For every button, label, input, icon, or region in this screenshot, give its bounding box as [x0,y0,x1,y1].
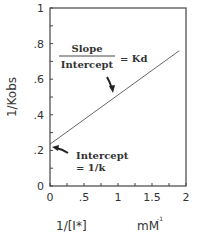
x-tick-label: .5 [79,191,90,204]
x-axis-label: 1/[I*] [56,219,87,233]
x-tick-label: 0 [47,191,54,204]
annotation-intercept-line1: Intercept [76,150,129,161]
x-tick-label: 1.5 [143,191,161,204]
lineweaver-burk-chart: 0.511.52 0.2.4.6.81 Slope Intercept = Kd… [0,0,198,238]
intercept-annotation: Intercept = 1/k [52,145,129,173]
y-tick-label: .6 [34,73,45,86]
x-tick-label: 1 [115,191,122,204]
y-tick-label: .4 [34,109,45,122]
annotation-intercept-line2: = 1/k [76,162,106,173]
y-tick-label: 1 [37,2,44,15]
x-axis-tick-labels: 0.511.52 [47,191,190,204]
arrowhead-icon [52,145,59,151]
annotation-denominator: Intercept [61,59,114,70]
y-tick-label: 0 [37,180,44,193]
y-tick-label: .2 [34,144,45,157]
x-axis-unit-superscript: -1 [157,215,163,222]
x-axis-unit: mM [137,219,159,233]
arrowhead-icon [109,85,115,93]
y-axis-tick-labels: 0.2.4.6.81 [34,2,45,193]
y-axis-label: 1/Kobs [5,77,19,117]
annotation-suffix: = Kd [120,53,148,64]
annotation-numerator: Slope [71,43,102,54]
y-tick-label: .8 [34,38,45,51]
x-tick-label: 2 [183,191,190,204]
slope-intercept-annotation: Slope Intercept = Kd [59,43,148,93]
